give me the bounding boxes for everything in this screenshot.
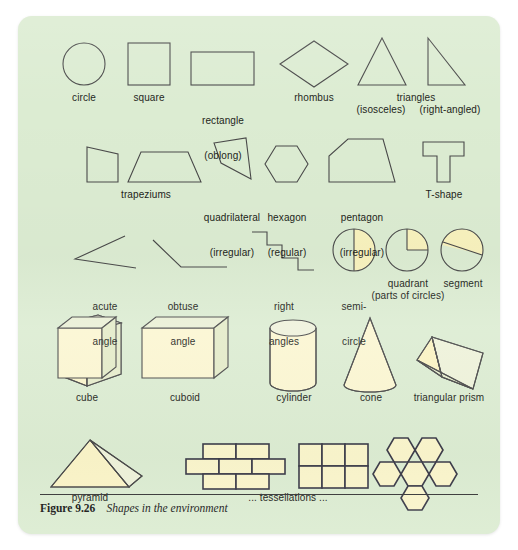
square-tessellation-shape xyxy=(299,444,368,488)
label-cuboid: cuboid xyxy=(155,392,215,404)
figure-title: Shapes in the environment xyxy=(106,502,227,514)
label-obtuse-line1: obtuse xyxy=(154,301,212,313)
label-isosceles: (isosceles) xyxy=(350,104,412,116)
caption-divider xyxy=(40,494,478,495)
pentagon-irregular-shape xyxy=(329,139,395,182)
acute-angle-shape xyxy=(75,236,136,268)
label-triangular-prism: triangular prism xyxy=(403,392,495,404)
figure-caption: Figure 9.26Shapes in the environment xyxy=(40,502,478,514)
label-rectangle-line1: rectangle xyxy=(192,115,254,127)
label-obtuse-angle: obtuse angle xyxy=(154,278,212,370)
label-rectangle-line2: (oblong) xyxy=(192,150,254,162)
label-cone: cone xyxy=(341,392,401,404)
label-cube: cube xyxy=(57,392,117,404)
trapezium-isosceles-shape xyxy=(128,152,201,182)
t-shape-shape xyxy=(423,142,464,182)
label-right-angled: (right-angled) xyxy=(412,104,488,116)
label-circle: circle xyxy=(54,92,114,104)
label-acute-line2: angle xyxy=(76,336,134,348)
label-quadrant: quadrant xyxy=(378,278,438,290)
label-pentagon-line2: (irregular) xyxy=(329,247,395,259)
pyramid-shape xyxy=(51,440,142,487)
label-hexagon-line2: (regular) xyxy=(259,247,315,259)
label-semi-line1: semi- xyxy=(326,301,382,313)
square-shape xyxy=(128,43,170,85)
segment-shape xyxy=(438,221,488,271)
label-trapeziums: trapeziums xyxy=(108,189,184,201)
label-semi-line2: circle xyxy=(326,336,382,348)
label-rhombus: rhombus xyxy=(284,92,344,104)
label-right-angles: right angles xyxy=(255,278,313,370)
label-acute-angle: acute angle xyxy=(76,278,134,370)
label-square: square xyxy=(119,92,179,104)
label-right-line2: angles xyxy=(255,336,313,348)
label-parts-of-circles: (parts of circles) xyxy=(355,290,461,302)
brick-tessellation-shape xyxy=(186,444,285,489)
rhombus-shape xyxy=(280,41,348,87)
label-rectangle: rectangle (oblong) xyxy=(192,92,254,184)
triangular-prism-shape xyxy=(417,337,483,389)
label-right-line1: right xyxy=(255,301,313,313)
label-obtuse-line2: angle xyxy=(154,336,212,348)
figure-card: circle square rectangle (oblong) rhombus… xyxy=(18,16,500,534)
hexagon-regular-shape xyxy=(265,146,308,182)
label-triangles: triangles xyxy=(382,92,450,104)
label-acute-line1: acute xyxy=(76,301,134,313)
trapezium-right-shape xyxy=(87,147,118,182)
right-angled-triangle-shape xyxy=(428,38,465,85)
label-segment: segment xyxy=(434,278,492,290)
hexagon-tessellation-shape xyxy=(373,438,457,510)
figure-number: Figure 9.26 xyxy=(40,502,95,514)
label-hexagon: hexagon (regular) xyxy=(259,189,315,281)
label-pentagon: pentagon (irregular) xyxy=(329,189,395,281)
circle-shape xyxy=(63,43,105,85)
isosceles-triangle-shape xyxy=(358,38,406,85)
label-t-shape: T-shape xyxy=(414,189,474,201)
label-hexagon-line1: hexagon xyxy=(259,212,315,224)
label-pentagon-line1: pentagon xyxy=(329,212,395,224)
label-cylinder: cylinder xyxy=(264,392,324,404)
rectangle-shape xyxy=(191,52,254,85)
